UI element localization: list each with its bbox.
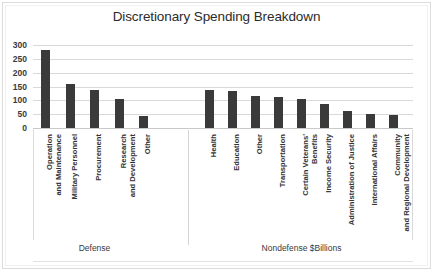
y-axis-tick-label: 300 [13,40,27,50]
y-axis-tick-label: 150 [13,82,27,92]
bar-nondefense-1 [228,91,237,128]
x-axis-category-label: International Affairs [371,134,380,238]
group-label-defense: Defense [35,243,155,253]
bar-nondefense-5 [320,104,329,128]
x-axis-category-label: Procurement [95,134,104,238]
bar-nondefense-4 [297,99,306,128]
group-label-area: Defense Nondefense $Billions [33,243,413,263]
x-axis-category-label: Certain Veterans' Benefits [302,134,319,238]
x-axis-category-label: Other [256,134,265,238]
x-axis-category-label: Education [233,134,242,238]
bar-nondefense-8 [389,115,398,128]
y-axis-tick-label: 50 [18,109,27,119]
x-axis-category-label: Administration of Justice [348,134,357,238]
bar-nondefense-6 [343,111,352,128]
bottom-rule [33,261,413,262]
x-axis-category-label: Research and Development [120,134,137,238]
gridline [33,73,413,74]
bar-nondefense-7 [366,114,375,128]
x-axis-category-label: Community and Regional Development [394,134,411,238]
y-axis-tick-label: 0 [22,123,27,133]
bar-nondefense-2 [251,96,260,128]
x-axis-category-label: Income Security [325,134,334,238]
gridline [33,59,413,60]
bar-defense-4 [139,116,148,128]
x-axis-category-label: Other [144,134,153,238]
x-axis-category-label: Health [210,134,219,238]
x-axis-category-label: Military Personnel [71,134,80,238]
y-axis: 050100150200250300 [0,45,29,128]
bar-nondefense-3 [274,97,283,128]
chart-container: Discretionary Spending Breakdown 0501001… [0,0,433,271]
bar-defense-2 [90,90,99,128]
bar-defense-3 [115,99,124,128]
bar-defense-0 [41,50,50,128]
bar-defense-1 [66,84,75,128]
category-label-area: Operation and MaintenanceMilitary Person… [33,130,413,240]
gridline [33,45,413,46]
y-axis-tick-label: 100 [13,95,27,105]
group-separator [188,130,189,245]
x-axis-category-label: Transportation [279,134,288,238]
chart-title: Discretionary Spending Breakdown [0,9,433,24]
gridline [33,87,413,88]
plot-area [33,45,413,128]
x-axis-category-label: Operation and Maintenance [46,134,63,238]
y-axis-tick-label: 200 [13,68,27,78]
bar-nondefense-0 [205,90,214,128]
x-axis-baseline [33,128,413,129]
y-axis-tick-label: 250 [13,54,27,64]
group-label-nondefense: Nondefense $Billions [232,243,372,253]
